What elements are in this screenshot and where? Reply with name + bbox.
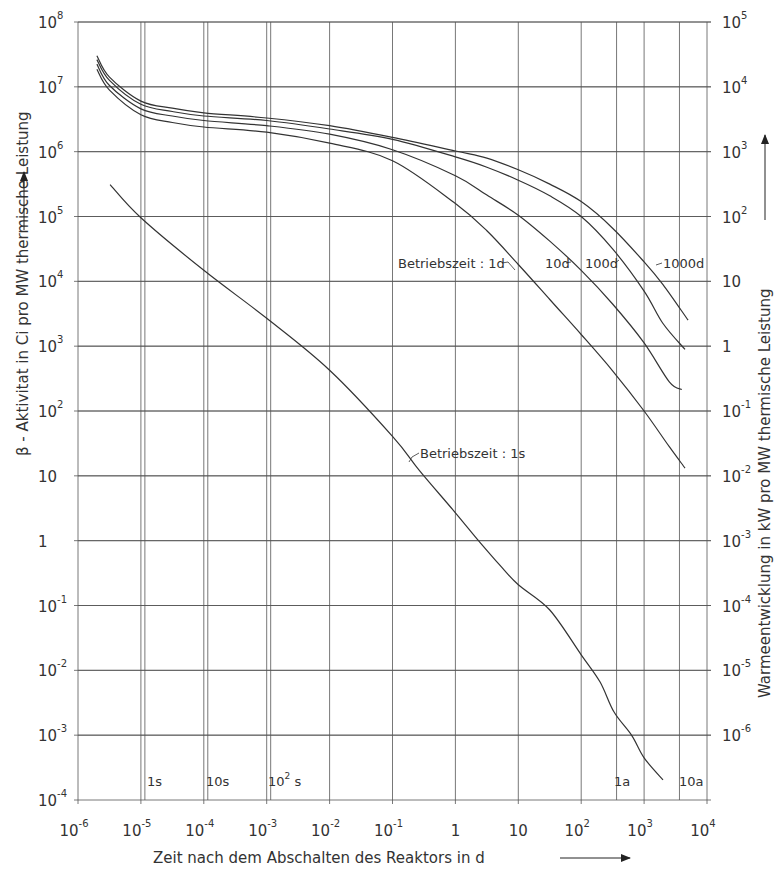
tick-label: 10-1: [722, 399, 751, 421]
tick-label: 104: [690, 818, 715, 840]
tick-label: 10-6: [59, 818, 88, 840]
tick-label: 10-2: [722, 464, 751, 486]
tick-label: 10: [509, 822, 528, 840]
annotation-1s: Betriebszeit : 1s: [420, 446, 525, 461]
tick-label: 10-4: [185, 818, 214, 840]
tick-label: 10-1: [38, 594, 67, 616]
tick-label: 10: [722, 273, 741, 291]
y2-axis-title: Warmeentwicklung in kW pro MW thermische…: [756, 135, 774, 698]
tick-label: 10-5: [122, 818, 151, 840]
tick-label: 108: [38, 10, 63, 32]
tick-label: 105: [722, 10, 747, 32]
svg-text:Zeit nach dem Abschalten des R: Zeit nach dem Abschalten des Reaktors in…: [153, 849, 485, 867]
tick-label: 103: [38, 334, 63, 356]
tick-label: 10-2: [311, 818, 340, 840]
tick-label: 10-3: [248, 818, 277, 840]
curve-betriebszeit-10d: [97, 64, 682, 390]
marker-10a-label: 10a: [679, 774, 704, 789]
tick-label: 10-3: [38, 723, 67, 745]
tick-label: 1: [722, 338, 732, 356]
tick-label: 102: [38, 399, 63, 421]
curve-betriebszeit-100d: [97, 60, 685, 350]
tick-label: 104: [722, 75, 747, 97]
tick-label: 10-3: [722, 529, 751, 551]
marker-10s-label: 10s: [206, 774, 230, 789]
tick-label: 10-6: [722, 723, 751, 745]
tick-label: 10-5: [722, 658, 751, 680]
tick-label: 107: [38, 75, 63, 97]
svg-text:β - Aktivitat in Ci pro MW the: β - Aktivitat in Ci pro MW thermische Le…: [14, 111, 32, 456]
tick-label: 103: [627, 818, 652, 840]
tick-label: 10-1: [374, 818, 403, 840]
tick-label: 1: [38, 533, 48, 551]
annotation-1000d: 1000d: [663, 256, 704, 271]
annotation-1d: Betriebszeit : 1d: [398, 256, 505, 271]
marker-1a-label: 1a: [614, 774, 630, 789]
marker-100s-label: 102 s: [268, 771, 301, 789]
y-axis-title: β - Aktivitat in Ci pro MW thermische Le…: [14, 111, 32, 456]
tick-label: 1: [451, 822, 461, 840]
marker-1s-label: 1s: [147, 774, 162, 789]
tick-label: 103: [722, 140, 747, 162]
annotation-10d: 10d: [545, 256, 570, 271]
annotation-100d: 100d: [585, 256, 618, 271]
tick-label: 10-4: [38, 788, 67, 810]
x-axis-title: Zeit nach dem Abschalten des Reaktors in…: [153, 849, 630, 867]
tick-label: 10-2: [38, 658, 67, 680]
curve-betriebszeit-1s: [110, 185, 663, 780]
svg-text:Warmeentwicklung in kW pro MW: Warmeentwicklung in kW pro MW thermische…: [756, 289, 774, 698]
tick-label: 105: [38, 205, 63, 227]
tick-label: 106: [38, 140, 63, 162]
tick-label: 102: [722, 205, 747, 227]
decay-chart: 10-610-510-410-310-210-11101021031041081…: [0, 0, 777, 881]
tick-label: 104: [38, 269, 63, 291]
tick-label: 10: [38, 468, 57, 486]
tick-label: 10-4: [722, 594, 751, 616]
tick-label: 102: [564, 818, 589, 840]
